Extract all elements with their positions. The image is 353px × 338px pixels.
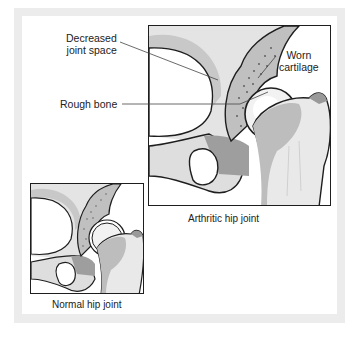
decreased-joint-space-label: Decreased joint space — [66, 32, 117, 56]
worn-cartilage-label: Worn cartilage — [279, 49, 319, 73]
worn-cartilage-line1: Worn — [279, 49, 319, 61]
worn-cartilage-line2: cartilage — [279, 61, 319, 73]
decreased-joint-space-line2: joint space — [66, 44, 117, 56]
normal-hip-illustration — [30, 183, 144, 294]
arthritic-hip-caption: Arthritic hip joint — [188, 213, 259, 224]
decreased-joint-space-line1: Decreased — [66, 32, 117, 44]
rough-bone-label: Rough bone — [60, 98, 117, 110]
normal-hip-drawing — [31, 184, 144, 294]
normal-hip-caption: Normal hip joint — [52, 299, 121, 310]
